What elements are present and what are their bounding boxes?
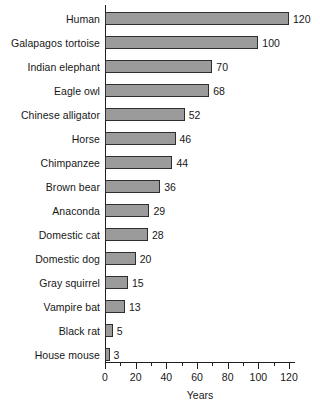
x-tick-minor (243, 363, 244, 366)
x-tick-minor (274, 363, 275, 366)
bar-value-label: 28 (152, 229, 164, 242)
x-tick-label: 0 (90, 371, 120, 383)
bar-value-label: 3 (114, 349, 120, 362)
bar-row: Vampire bat13 (0, 299, 320, 323)
bar-chart: Human120Galapagos tortoise100Indian elep… (0, 0, 320, 412)
bar-row: Brown bear36 (0, 179, 320, 203)
category-label: Anaconda (0, 205, 100, 218)
bar-value-label: 70 (216, 61, 228, 74)
bar-row: Domestic dog20 (0, 251, 320, 275)
category-label: Horse (0, 133, 100, 146)
bar (105, 156, 172, 169)
bar-value-label: 100 (262, 37, 280, 50)
bar (105, 252, 136, 265)
bar-value-label: 13 (129, 301, 141, 314)
x-tick-label: 20 (121, 371, 151, 383)
x-tick-major (258, 363, 259, 369)
bar (105, 36, 258, 49)
bar-value-label: 5 (117, 325, 123, 338)
bar-row: Anaconda29 (0, 203, 320, 227)
bar-row: Human120 (0, 11, 320, 35)
x-tick-major (197, 363, 198, 369)
category-label: Chimpanzee (0, 157, 100, 170)
bar (105, 180, 160, 193)
bar-value-label: 44 (176, 157, 188, 170)
x-tick-major (136, 363, 137, 369)
category-label: Indian elephant (0, 61, 100, 74)
category-label: Eagle owl (0, 85, 100, 98)
x-axis-title: Years (105, 389, 295, 401)
bar-row: Gray squirrel15 (0, 275, 320, 299)
x-tick-major (105, 363, 106, 369)
category-label: Brown bear (0, 181, 100, 194)
bar (105, 276, 128, 289)
bar (105, 324, 113, 337)
bar-value-label: 52 (189, 109, 201, 122)
x-tick-minor (212, 363, 213, 366)
category-label: Black rat (0, 325, 100, 338)
category-label: Galapagos tortoise (0, 37, 100, 50)
x-tick-label: 120 (274, 371, 304, 383)
bar (105, 108, 185, 121)
bar-row: Galapagos tortoise100 (0, 35, 320, 59)
bar-row: Eagle owl68 (0, 83, 320, 107)
category-label: House mouse (0, 349, 100, 362)
bar-value-label: 29 (153, 205, 165, 218)
bar-value-label: 15 (132, 277, 144, 290)
bar (105, 348, 110, 361)
bar (105, 204, 149, 217)
bar (105, 300, 125, 313)
x-tick-minor (151, 363, 152, 366)
x-tick-label: 40 (151, 371, 181, 383)
bar-row: Chinese alligator52 (0, 107, 320, 131)
bar (105, 84, 209, 97)
bar-row: Domestic cat28 (0, 227, 320, 251)
bar (105, 60, 212, 73)
x-tick-minor (182, 363, 183, 366)
bar-value-label: 46 (180, 133, 192, 146)
bar-row: Horse46 (0, 131, 320, 155)
x-tick-label: 100 (243, 371, 273, 383)
x-tick-label: 60 (182, 371, 212, 383)
bar-value-label: 120 (293, 13, 311, 26)
bar-value-label: 36 (164, 181, 176, 194)
bar-row: Chimpanzee44 (0, 155, 320, 179)
category-label: Chinese alligator (0, 109, 100, 122)
category-label: Vampire bat (0, 301, 100, 314)
x-tick-major (289, 363, 290, 369)
category-label: Human (0, 13, 100, 26)
bar (105, 132, 176, 145)
bar (105, 12, 289, 25)
category-label: Domestic dog (0, 253, 100, 266)
x-tick-label: 80 (213, 371, 243, 383)
bar-row: Indian elephant70 (0, 59, 320, 83)
bar-value-label: 20 (140, 253, 152, 266)
bar-value-label: 68 (213, 85, 225, 98)
x-tick-major (228, 363, 229, 369)
bar (105, 228, 148, 241)
category-label: Domestic cat (0, 229, 100, 242)
x-tick-minor (120, 363, 121, 366)
bar-row: House mouse3 (0, 347, 320, 371)
x-tick-major (166, 363, 167, 369)
category-label: Gray squirrel (0, 277, 100, 290)
bar-row: Black rat5 (0, 323, 320, 347)
